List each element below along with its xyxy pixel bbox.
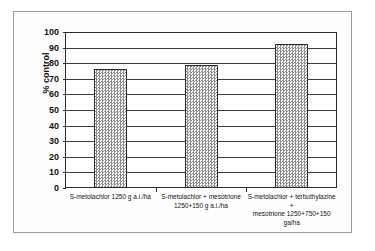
gridline (66, 94, 336, 95)
chart-canvas: % control 1009080706050403020100 S-metol… (14, 12, 351, 232)
x-axis-label-line: ga/ha (246, 219, 337, 228)
y-axis-tick-label: 40 (49, 121, 59, 130)
y-axis-tick-label: 70 (49, 74, 59, 83)
plot-area (65, 32, 337, 188)
y-axis-tick-labels: 1009080706050403020100 (32, 32, 63, 188)
x-axis-label-line: mesotrione 1250+750+150 (246, 210, 337, 219)
x-axis-label-line: 1250+150 g a.i./ha (156, 202, 247, 211)
y-axis-tick-label: 30 (49, 137, 59, 146)
chart-outer-frame: % control 1009080706050403020100 S-metol… (13, 11, 352, 233)
x-axis-category-label: S-metolachlor 1250 g a.i./ha (65, 193, 156, 202)
x-axis-category-labels: S-metolachlor 1250 g a.i./haS-metolachlo… (65, 193, 337, 233)
y-axis-tick-label: 100 (44, 28, 59, 37)
y-axis-tick-label: 10 (49, 168, 59, 177)
x-axis-category-label: S-metolachlor + terbuthylazine +mesotrio… (246, 193, 337, 227)
y-axis-tick-label: 20 (49, 152, 59, 161)
y-axis-tick-label: 90 (49, 43, 59, 52)
gridline (66, 63, 336, 64)
x-axis-label-line: S-metolachlor 1250 g a.i./ha (65, 193, 156, 202)
x-axis-label-line: S-metolachlor + mesotrione (156, 193, 247, 202)
y-axis-tick-label: 80 (49, 59, 59, 68)
x-axis-label-line: S-metolachlor + terbuthylazine + (246, 193, 337, 210)
y-axis-tick-label: 60 (49, 90, 59, 99)
gridline (66, 110, 336, 111)
gridline (66, 172, 336, 173)
gridline (66, 141, 336, 142)
x-axis-tick-mark (246, 188, 247, 192)
x-axis-category-label: S-metolachlor + mesotrione1250+150 g a.i… (156, 193, 247, 210)
y-axis-tick-mark (63, 188, 66, 189)
y-axis-tick-label: 50 (49, 106, 59, 115)
x-axis-tick-mark (156, 188, 157, 192)
gridline (66, 79, 336, 80)
gridline (66, 157, 336, 158)
y-axis-tick-label: 0 (54, 184, 59, 193)
gridline (66, 126, 336, 127)
gridline (66, 48, 336, 49)
